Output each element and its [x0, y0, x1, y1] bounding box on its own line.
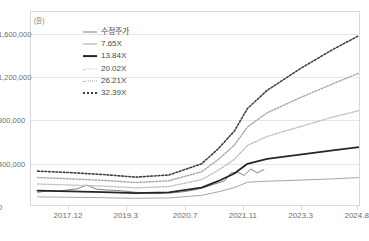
y-axis-tick-label: 800,000	[0, 116, 29, 125]
y-axis-tick-label: 400,000	[0, 159, 29, 168]
y-axis-tick-label: 1,600,000	[0, 29, 29, 38]
y-axis-tick-label: 0	[0, 203, 29, 212]
x-axis-tick-mark	[357, 206, 358, 210]
legend-line-icon	[83, 27, 97, 37]
legend-item[interactable]: 32.39X	[83, 87, 169, 99]
x-axis-tick-mark	[126, 206, 127, 210]
x-axis-tick-label: 2021.11	[229, 211, 257, 220]
legend-item[interactable]: 13.84X	[83, 50, 169, 62]
legend-line-icon	[83, 39, 97, 49]
x-axis-tick-label: 2019.3	[113, 211, 137, 220]
legend-label: 32.39X	[101, 88, 126, 98]
legend-label: 7.65X	[101, 39, 122, 49]
x-axis-tick-label: 2024.8	[344, 211, 368, 220]
plot-inner	[31, 12, 359, 205]
legend-line-icon	[83, 88, 97, 98]
series-line	[38, 111, 359, 188]
legend-label: 수정주가	[101, 27, 129, 37]
chart-legend: 수정주가7.65X13.84X20.02X26.21X32.39X	[83, 26, 169, 99]
chart-title	[0, 0, 363, 8]
legend-label: 26.21X	[101, 76, 126, 86]
legend-line-icon	[83, 76, 97, 86]
legend-item[interactable]: 26.21X	[83, 75, 169, 87]
x-axis-tick-mark	[185, 206, 186, 210]
plot-area: (원) 수정주가7.65X13.84X20.02X26.21X32.39X 04…	[30, 11, 360, 206]
legend-line-icon	[83, 64, 97, 74]
x-axis-tick-label: 2020.7	[173, 211, 197, 220]
legend-item[interactable]: 7.65X	[83, 38, 169, 50]
legend-label: 20.02X	[101, 64, 126, 74]
y-axis-tick-label: 1,200,000	[0, 73, 29, 82]
legend-label: 13.84X	[101, 51, 126, 61]
legend-item[interactable]: 20.02X	[83, 63, 169, 75]
x-axis-tick-mark	[301, 206, 302, 210]
legend-item[interactable]: 수정주가	[83, 26, 169, 38]
x-axis-tick-mark	[68, 206, 69, 210]
legend-line-icon	[83, 51, 97, 61]
x-axis-tick-mark	[243, 206, 244, 210]
x-axis-tick-label: 2017.12	[53, 211, 82, 220]
series-layer	[31, 12, 359, 205]
series-line	[38, 147, 359, 193]
x-axis-tick-label: 2023.3	[288, 211, 312, 220]
